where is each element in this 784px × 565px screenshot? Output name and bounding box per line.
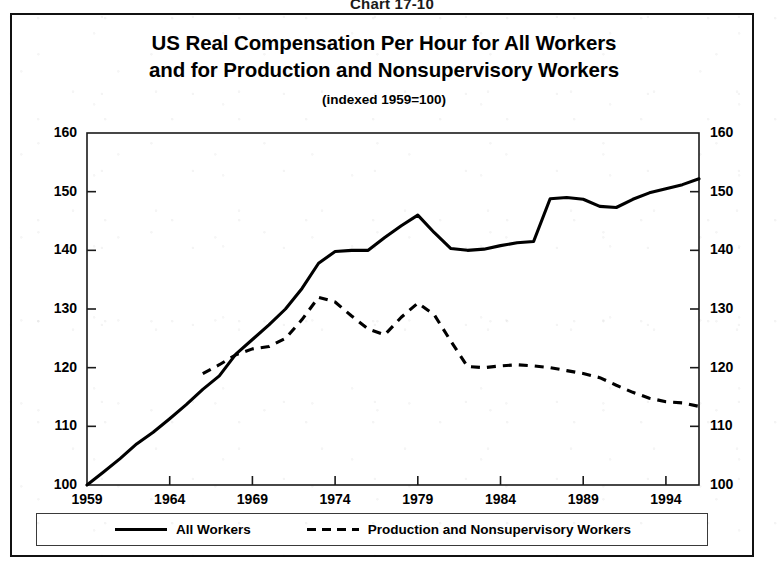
y-axis-label-left-140: 140 [39,241,77,257]
y-axis-label-left-110: 110 [39,417,77,433]
x-axis-label-1969: 1969 [225,491,279,507]
plot-area: 100110120130140150160 100110120130140150… [12,15,756,559]
x-axis-label-1979: 1979 [391,491,445,507]
x-axis-label-1989: 1989 [556,491,610,507]
y-axis-label-right-130: 130 [710,300,748,316]
legend: All Workers Production and Nonsupervisor… [36,513,708,546]
x-axis-label-1994: 1994 [639,491,693,507]
x-axis-label-1959: 1959 [60,491,114,507]
y-axis-label-left-150: 150 [39,183,77,199]
y-axis-label-right-120: 120 [710,359,748,375]
solid-line-icon [115,528,167,531]
plot-border [87,133,699,485]
series-line-production-nonsupervisory [203,297,699,406]
legend-label-production-nonsupervisory: Production and Nonsupervisory Workers [368,522,631,537]
chart-number: Chart 17-10 [0,0,784,12]
y-axis-label-left-100: 100 [39,476,77,492]
y-axis-label-right-110: 110 [710,417,748,433]
y-axis-label-right-100: 100 [710,476,748,492]
y-axis-label-right-160: 160 [710,124,748,140]
y-axis-label-right-140: 140 [710,241,748,257]
x-axis-label-1974: 1974 [308,491,362,507]
dashed-line-icon [307,528,359,531]
x-axis-label-1964: 1964 [143,491,197,507]
y-axis-label-right-150: 150 [710,183,748,199]
series-line-all-workers [87,179,699,485]
x-axis-ticks [170,476,666,485]
legend-label-all-workers: All Workers [176,522,251,537]
chart-frame: US Real Compensation Per Hour for All Wo… [10,13,754,557]
y-axis-ticks-left [87,192,96,427]
plot-svg [12,15,756,559]
legend-item-all-workers: All Workers [115,522,251,537]
y-axis-label-left-160: 160 [39,124,77,140]
y-axis-ticks-right [690,192,699,427]
x-axis-label-1984: 1984 [474,491,528,507]
y-axis-label-left-130: 130 [39,300,77,316]
y-axis-label-left-120: 120 [39,359,77,375]
legend-item-production-nonsupervisory: Production and Nonsupervisory Workers [307,522,631,537]
